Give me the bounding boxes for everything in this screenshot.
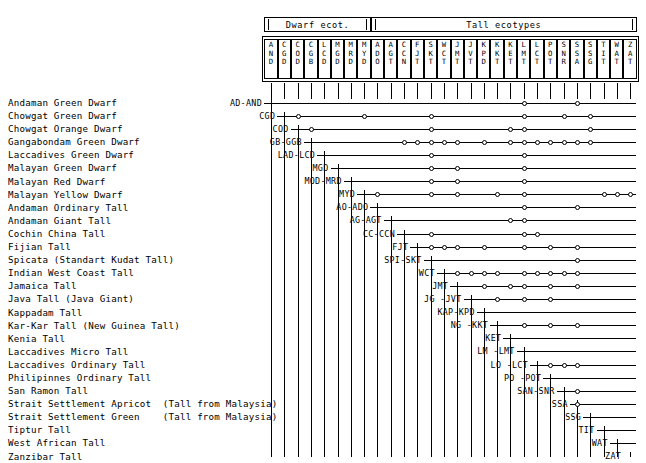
matrix-node[interactable] xyxy=(402,140,407,145)
column-header-pot[interactable]: POT xyxy=(544,39,557,79)
row-stub-ngkkt[interactable]: NG -KKT xyxy=(0,319,488,332)
row-stub-aoado[interactable]: AO-ADO xyxy=(0,201,368,214)
matrix-node[interactable] xyxy=(429,140,434,145)
matrix-node[interactable] xyxy=(575,101,580,106)
matrix-node[interactable] xyxy=(429,127,434,132)
matrix-node[interactable] xyxy=(429,192,434,197)
matrix-node[interactable] xyxy=(548,323,553,328)
column-header-fjt[interactable]: FJT xyxy=(411,39,424,79)
matrix-node[interactable] xyxy=(309,127,314,132)
matrix-node[interactable] xyxy=(415,140,420,145)
matrix-node[interactable] xyxy=(575,363,580,368)
matrix-node[interactable] xyxy=(508,284,513,289)
matrix-node[interactable] xyxy=(522,232,527,237)
matrix-node[interactable] xyxy=(548,284,553,289)
matrix-node[interactable] xyxy=(482,271,487,276)
matrix-node[interactable] xyxy=(482,245,487,250)
matrix-node[interactable] xyxy=(522,166,527,171)
matrix-node[interactable] xyxy=(482,140,487,145)
matrix-node[interactable] xyxy=(522,140,527,145)
column-header-kkt[interactable]: KKT xyxy=(490,39,503,79)
column-header-ssa[interactable]: SSA xyxy=(570,39,583,79)
matrix-node[interactable] xyxy=(575,323,580,328)
matrix-node[interactable] xyxy=(455,179,460,184)
matrix-node[interactable] xyxy=(495,271,500,276)
column-header-wct[interactable]: WCT xyxy=(437,39,450,79)
matrix-node[interactable] xyxy=(575,258,580,263)
matrix-node[interactable] xyxy=(508,218,513,223)
column-header-cod[interactable]: COD xyxy=(291,39,304,79)
matrix-node[interactable] xyxy=(522,245,527,250)
matrix-node[interactable] xyxy=(522,297,527,302)
matrix-node[interactable] xyxy=(602,192,607,197)
matrix-node[interactable] xyxy=(522,192,527,197)
matrix-node[interactable] xyxy=(562,140,567,145)
matrix-node[interactable] xyxy=(575,284,580,289)
matrix-node[interactable] xyxy=(548,140,553,145)
matrix-node[interactable] xyxy=(535,271,540,276)
column-header-cgb[interactable]: CGB xyxy=(304,39,317,79)
row-stub-spiskt[interactable]: SPI-SKT xyxy=(0,253,422,266)
matrix-node[interactable] xyxy=(522,127,527,132)
column-header-kpd[interactable]: KPD xyxy=(477,39,490,79)
row-stub-popot[interactable]: PO -POT xyxy=(0,371,541,384)
row-stub-gbggb[interactable]: GB-GGB xyxy=(0,135,302,148)
matrix-node[interactable] xyxy=(296,114,301,119)
matrix-node[interactable] xyxy=(508,140,513,145)
matrix-node[interactable] xyxy=(562,114,567,119)
column-header-ket[interactable]: KET xyxy=(504,39,517,79)
matrix-node[interactable] xyxy=(455,166,460,171)
row-stub-cgd[interactable]: CGD xyxy=(0,109,275,122)
matrix-node[interactable] xyxy=(522,153,527,158)
matrix-node[interactable] xyxy=(429,179,434,184)
column-header-jmt[interactable]: JMT xyxy=(451,39,464,79)
matrix-node[interactable] xyxy=(442,140,447,145)
row-stub-mgd[interactable]: MGD xyxy=(0,162,329,175)
column-header-mrd[interactable]: MRD xyxy=(344,39,357,79)
matrix-node[interactable] xyxy=(575,402,580,407)
column-header-lcd[interactable]: LCD xyxy=(318,39,331,79)
matrix-node[interactable] xyxy=(575,389,580,394)
matrix-node[interactable] xyxy=(588,140,593,145)
matrix-node[interactable] xyxy=(429,245,434,250)
row-stub-ladlcd[interactable]: LAD-LCD xyxy=(0,148,315,161)
column-header-snr[interactable]: SNR xyxy=(557,39,570,79)
row-stub-lolct[interactable]: LO -LCT xyxy=(0,358,528,371)
matrix-node[interactable] xyxy=(455,271,460,276)
column-header-ssg[interactable]: SSG xyxy=(584,39,597,79)
column-header-lct[interactable]: LCT xyxy=(530,39,543,79)
matrix-node[interactable] xyxy=(455,192,460,197)
matrix-node[interactable] xyxy=(482,284,487,289)
row-stub-lmlmt[interactable]: LM -LMT xyxy=(0,345,515,358)
matrix-node[interactable] xyxy=(562,271,567,276)
row-stub-zat[interactable]: ZAT xyxy=(0,450,621,463)
matrix-node[interactable] xyxy=(522,323,527,328)
matrix-node[interactable] xyxy=(522,101,527,106)
column-header-lmt[interactable]: LMT xyxy=(517,39,530,79)
row-stub-sansnr[interactable]: SAN-SNR xyxy=(0,384,555,397)
matrix-node[interactable] xyxy=(429,166,434,171)
matrix-node[interactable] xyxy=(469,271,474,276)
row-stub-cod[interactable]: COD xyxy=(0,122,289,135)
matrix-node[interactable] xyxy=(522,218,527,223)
row-stub-wat[interactable]: WAT xyxy=(0,437,608,450)
matrix-node[interactable] xyxy=(548,245,553,250)
matrix-node[interactable] xyxy=(575,245,580,250)
matrix-node[interactable] xyxy=(522,114,527,119)
column-header-jvt[interactable]: JVT xyxy=(464,39,477,79)
matrix-node[interactable] xyxy=(522,284,527,289)
row-stub-jgjvt[interactable]: JG -JVT xyxy=(0,293,462,306)
matrix-node[interactable] xyxy=(575,205,580,210)
matrix-node[interactable] xyxy=(615,192,620,197)
column-header-skt[interactable]: SKT xyxy=(424,39,437,79)
column-header-and[interactable]: AND xyxy=(264,39,277,79)
column-header-mgd[interactable]: MGD xyxy=(331,39,344,79)
row-stub-tit[interactable]: TIT xyxy=(0,424,595,437)
matrix-node[interactable] xyxy=(575,140,580,145)
matrix-node[interactable] xyxy=(508,127,513,132)
matrix-node[interactable] xyxy=(588,114,593,119)
matrix-node[interactable] xyxy=(362,114,367,119)
matrix-node[interactable] xyxy=(495,297,500,302)
matrix-node[interactable] xyxy=(548,363,553,368)
row-stub-ket[interactable]: KET xyxy=(0,332,501,345)
